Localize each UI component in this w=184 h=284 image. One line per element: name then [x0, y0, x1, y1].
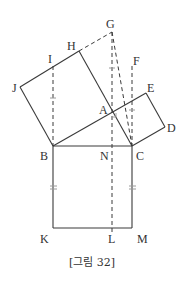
label-N: N	[100, 149, 109, 163]
figure-caption: [그림 32]	[69, 256, 115, 269]
segment-HC	[79, 51, 132, 146]
point-labels: G H I J F E A D B N C K L M	[12, 17, 176, 246]
label-D: D	[167, 121, 176, 135]
label-B: B	[40, 149, 48, 163]
dashed-lines	[53, 32, 132, 232]
segment-HG	[79, 32, 112, 51]
label-M: M	[137, 232, 148, 246]
label-A: A	[99, 103, 108, 117]
label-G: G	[106, 17, 115, 31]
label-L: L	[108, 232, 115, 246]
segment-ED	[146, 93, 165, 127]
label-F: F	[133, 54, 140, 68]
label-C: C	[136, 149, 144, 163]
label-E: E	[147, 81, 154, 95]
label-K: K	[40, 232, 49, 246]
label-J: J	[12, 81, 17, 95]
solid-lines	[20, 51, 165, 228]
segment-DC	[132, 127, 165, 146]
pythagorean-diagram: G H I J F E A D B N C K L M [그림 32]	[0, 0, 184, 284]
label-H: H	[67, 39, 76, 53]
label-I: I	[48, 52, 52, 66]
equal-marks	[50, 68, 136, 189]
segment-JB	[20, 87, 53, 146]
